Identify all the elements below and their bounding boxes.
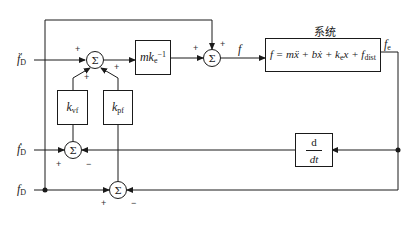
signal-fe: fe — [384, 38, 391, 52]
system-equation: f = mẍ + bẋ + kex + fdist — [270, 49, 376, 62]
sum3-sign-plus: + — [56, 160, 61, 169]
sum3-sign-minus: − — [86, 160, 91, 169]
block-derivative: ddt — [295, 133, 333, 167]
summer-3: Σ — [64, 141, 82, 159]
input-fD-dot: ḟD — [17, 143, 26, 157]
block-mke-inverse: mke−1 — [135, 40, 171, 75]
sum2-sign-top: + — [220, 40, 225, 49]
sum1-sign-kpf: + — [114, 63, 119, 72]
sum2-sign-left: + — [193, 44, 198, 53]
sum4-sign-minus: − — [131, 199, 136, 208]
block-system: f = mẍ + bẋ + kex + fdist — [265, 38, 381, 72]
sum1-sign-kvf: + — [84, 73, 89, 82]
sum1-sign-left: + — [75, 45, 80, 54]
summer-2: Σ — [203, 49, 221, 67]
input-fD-ddot: f̈D — [17, 53, 26, 67]
signal-f: f — [238, 43, 241, 55]
block-kvf: kvf — [57, 90, 88, 125]
block-kpf: kpf — [103, 90, 133, 125]
summer-4: Σ — [109, 181, 127, 199]
summer-1: Σ — [86, 51, 104, 69]
system-title: 系统 — [314, 23, 336, 39]
input-fD: fD — [17, 183, 26, 197]
sum4-sign-plus: + — [101, 199, 106, 208]
